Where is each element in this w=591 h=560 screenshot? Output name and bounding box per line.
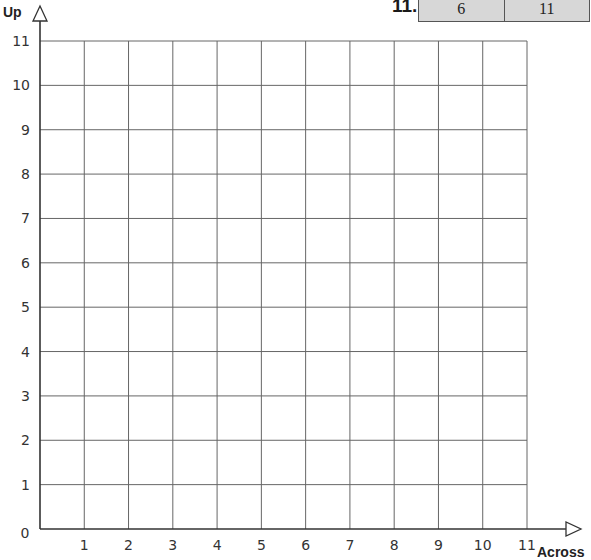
x-tick-label: 10 xyxy=(474,537,492,553)
x-tick-label: 7 xyxy=(345,537,354,553)
y-tick-label: 6 xyxy=(21,255,30,271)
y-tick-label: 2 xyxy=(21,432,30,448)
y-tick-label: 4 xyxy=(21,344,30,360)
y-tick-label: 5 xyxy=(21,299,30,315)
x-tick-label: 11 xyxy=(518,537,536,553)
y-tick-label: 9 xyxy=(21,122,30,138)
x-tick-label: 2 xyxy=(124,537,133,553)
origin-label: 0 xyxy=(21,525,30,541)
y-tick-label: 7 xyxy=(21,210,30,226)
x-tick-label: 5 xyxy=(257,537,266,553)
x-tick-label: 8 xyxy=(390,537,399,553)
x-tick-label: 6 xyxy=(301,537,310,553)
coordinate-grid-chart[interactable]: 123456789101112345678910110UpAcross xyxy=(0,0,591,560)
x-tick-label: 3 xyxy=(168,537,177,553)
y-tick-label: 10 xyxy=(12,77,30,93)
x-tick-label: 1 xyxy=(80,537,89,553)
x-tick-label: 4 xyxy=(213,537,222,553)
y-tick-label: 11 xyxy=(12,33,30,49)
right-arrow-icon xyxy=(566,522,581,536)
x-axis-label: Across xyxy=(537,544,585,560)
x-tick-label: 9 xyxy=(434,537,443,553)
y-tick-label: 3 xyxy=(21,388,30,404)
y-tick-label: 8 xyxy=(21,166,30,182)
up-arrow-icon xyxy=(33,6,47,21)
y-tick-label: 1 xyxy=(21,477,30,493)
y-axis-label: Up xyxy=(3,4,22,20)
